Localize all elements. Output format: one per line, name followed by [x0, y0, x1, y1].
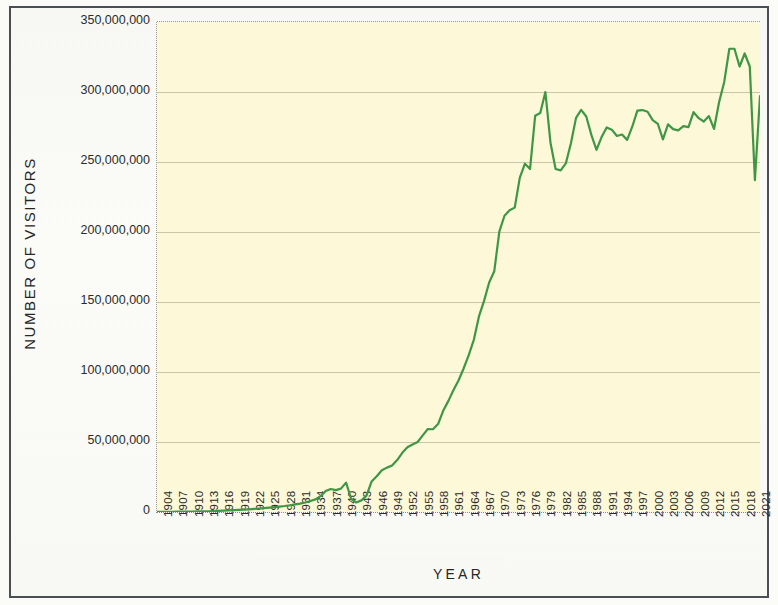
visitors-series-line [157, 22, 760, 512]
y-tick-label: 300,000,000 [0, 83, 150, 97]
y-axis-title: NUMBER OF VISITORS [21, 124, 38, 384]
series-polyline [157, 49, 760, 512]
line-chart: 050,000,000100,000,000150,000,000200,000… [0, 0, 778, 605]
y-tick-label: 50,000,000 [0, 433, 150, 447]
x-axis-title: YEAR [157, 566, 760, 582]
scanned-page: 050,000,000100,000,000150,000,000200,000… [0, 0, 778, 605]
y-tick-label: 0 [0, 503, 150, 517]
x-tick-label: 2021 [760, 457, 772, 517]
y-tick-label: 350,000,000 [0, 13, 150, 27]
